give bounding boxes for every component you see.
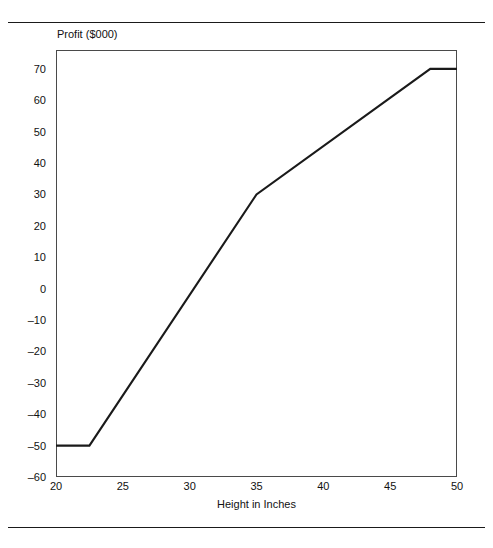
- x-tick-label: 20: [36, 480, 76, 492]
- figure: Profit ($000) 706050403020100–10–20–30–4…: [0, 0, 493, 548]
- y-tick-label: 10: [6, 251, 46, 263]
- y-tick-label: 70: [6, 63, 46, 75]
- x-tick-label: 45: [370, 480, 410, 492]
- y-tick-label: 40: [6, 157, 46, 169]
- y-tick-label: –40: [6, 408, 46, 420]
- x-tick-label: 30: [170, 480, 210, 492]
- y-tick-label: 50: [6, 126, 46, 138]
- profit-line: [56, 69, 457, 446]
- y-tick-label: –50: [6, 440, 46, 452]
- y-tick-label: 0: [6, 283, 46, 295]
- y-tick-label: 60: [6, 94, 46, 106]
- y-axis-title: Profit ($000): [57, 28, 118, 40]
- x-tick-label: 25: [103, 480, 143, 492]
- data-series-layer: [56, 50, 457, 477]
- x-tick-label: 35: [237, 480, 277, 492]
- x-tick-label: 40: [303, 480, 343, 492]
- y-tick-label: 30: [6, 188, 46, 200]
- y-tick-label: –10: [6, 314, 46, 326]
- x-tick-label: 50: [437, 480, 477, 492]
- y-tick-label: –20: [6, 345, 46, 357]
- x-axis-title: Height in Inches: [56, 498, 457, 510]
- line-chart: Profit ($000) 706050403020100–10–20–30–4…: [0, 0, 493, 548]
- y-tick-label: –30: [6, 377, 46, 389]
- y-tick-label: 20: [6, 220, 46, 232]
